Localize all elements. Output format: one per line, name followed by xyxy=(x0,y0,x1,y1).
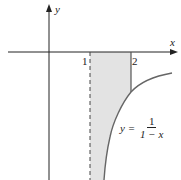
equation-lhs: y = xyxy=(120,122,135,134)
equation-denominator: 1 − x xyxy=(138,128,165,140)
tick-label-1: 1 xyxy=(82,55,88,67)
equation-numerator: 1 xyxy=(147,115,157,128)
graph-canvas xyxy=(0,0,181,180)
x-axis-arrow-icon xyxy=(170,49,178,55)
y-axis-label: y xyxy=(55,3,60,15)
x-axis-label: x xyxy=(170,36,175,48)
tick-label-2: 2 xyxy=(132,55,138,67)
curve-equation: y = 1 1 − x xyxy=(120,115,165,140)
y-axis-arrow-icon xyxy=(46,4,52,12)
